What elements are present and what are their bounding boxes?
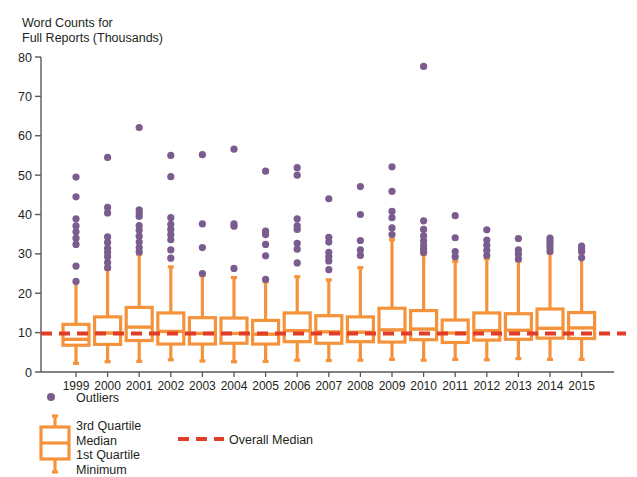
box-plot-2002 (158, 267, 184, 360)
x-axis-tick-label-2008: 2008 (347, 379, 374, 393)
box-plot-2006 (284, 277, 310, 360)
x-axis-tick-label-2015: 2015 (568, 379, 595, 393)
y-axis-tick-label: 60 (18, 129, 32, 143)
outlier-point (578, 242, 585, 249)
outlier-point (483, 236, 490, 243)
outlier-point (104, 204, 111, 211)
outlier-point (294, 172, 301, 179)
y-axis-tick-label: 10 (18, 326, 32, 340)
y-axis-tick-label: 20 (18, 287, 32, 301)
box-plot-2003 (189, 276, 215, 361)
outlier-point (294, 164, 301, 171)
outlier-point (325, 249, 332, 256)
box-plot-2005 (253, 282, 279, 362)
x-axis-tick-label-2005: 2005 (252, 379, 279, 393)
legend-box-labels: 3rd Quartile Median 1st Quartile Minimum (76, 419, 141, 477)
outlier-point (388, 224, 395, 231)
y-axis-tick-label: 0 (25, 366, 32, 380)
outlier-point (72, 193, 79, 200)
outlier-point (72, 235, 79, 242)
outlier-point (325, 266, 332, 273)
box-plot-2009 (379, 240, 405, 360)
outlier-point (325, 195, 332, 202)
y-axis-tick-label: 70 (18, 90, 32, 104)
outlier-point (136, 222, 143, 229)
outlier-point (325, 234, 332, 241)
outlier-point (420, 226, 427, 233)
box-plot-2012 (474, 259, 500, 360)
outlier-point (515, 235, 522, 242)
x-axis-tick-label-2012: 2012 (473, 379, 500, 393)
outlier-point (452, 248, 459, 255)
outlier-point (230, 265, 237, 272)
box-plot-2013 (505, 261, 531, 359)
outlier-point (72, 215, 79, 222)
legend-outliers-label: Outliers (76, 391, 119, 406)
x-axis-tick-label-2006: 2006 (284, 379, 311, 393)
x-axis-tick-label-2003: 2003 (189, 379, 216, 393)
outlier-point (230, 220, 237, 227)
box-plot-2010 (411, 255, 437, 361)
outlier-point (199, 151, 206, 158)
legend-box-icon (34, 414, 76, 474)
chart-root: Word Counts for Full Reports (Thousands)… (0, 0, 637, 477)
outlier-point (262, 227, 269, 234)
outlier-point (452, 234, 459, 241)
x-axis-tick-label-2014: 2014 (537, 379, 564, 393)
outlier-point (388, 188, 395, 195)
outlier-point (388, 163, 395, 170)
box-plot-2008 (347, 268, 373, 361)
box-plot-2014 (537, 253, 563, 359)
outlier-point (136, 206, 143, 213)
outlier-point (167, 152, 174, 159)
y-axis-tick-label: 50 (18, 169, 32, 183)
outlier-point (167, 173, 174, 180)
outlier-point (167, 214, 174, 221)
outlier-point (294, 215, 301, 222)
x-axis-tick-label-2007: 2007 (315, 379, 342, 393)
outlier-point (420, 63, 427, 70)
legend-overall-median-label: Overall Median (229, 433, 313, 448)
outlier-point (420, 232, 427, 239)
y-axis-tick-label: 80 (18, 51, 32, 65)
box-plot-2004 (221, 278, 247, 362)
y-axis-tick-label: 30 (18, 247, 32, 261)
outlier-point (136, 124, 143, 131)
outlier-point (357, 237, 364, 244)
legend-overall-median-dash-icon (178, 437, 224, 441)
outlier-point (262, 252, 269, 259)
outlier-point (104, 154, 111, 161)
outlier-point (294, 240, 301, 247)
outlier-point (388, 208, 395, 215)
box-plot-1999 (63, 282, 89, 364)
outlier-point (294, 259, 301, 266)
outlier-point (452, 212, 459, 219)
outlier-point (357, 246, 364, 253)
outlier-point (388, 214, 395, 221)
outlier-point (72, 241, 79, 248)
x-axis-tick-label-2013: 2013 (505, 379, 532, 393)
outlier-point (546, 235, 553, 242)
y-axis-tick-label: 40 (18, 208, 32, 222)
x-axis-tick-label-2002: 2002 (157, 379, 184, 393)
x-axis-tick-label-2004: 2004 (221, 379, 248, 393)
outlier-point (230, 146, 237, 153)
outlier-point (420, 217, 427, 224)
outlier-point (262, 276, 269, 283)
outlier-point (199, 220, 206, 227)
outlier-point (199, 244, 206, 251)
outlier-point (483, 226, 490, 233)
outlier-point (388, 231, 395, 238)
x-axis-tick-label-2010: 2010 (410, 379, 437, 393)
outlier-point (72, 278, 79, 285)
outlier-point (167, 246, 174, 253)
outlier-point (357, 211, 364, 218)
outlier-point (167, 255, 174, 262)
box-plot-2000 (95, 269, 121, 362)
outlier-point (72, 173, 79, 180)
x-axis-tick-label-2011: 2011 (442, 379, 468, 393)
box-plot-2007 (316, 280, 342, 361)
x-axis-tick-label-2009: 2009 (379, 379, 406, 393)
outlier-point (357, 183, 364, 190)
box-plot-2015 (569, 253, 595, 359)
